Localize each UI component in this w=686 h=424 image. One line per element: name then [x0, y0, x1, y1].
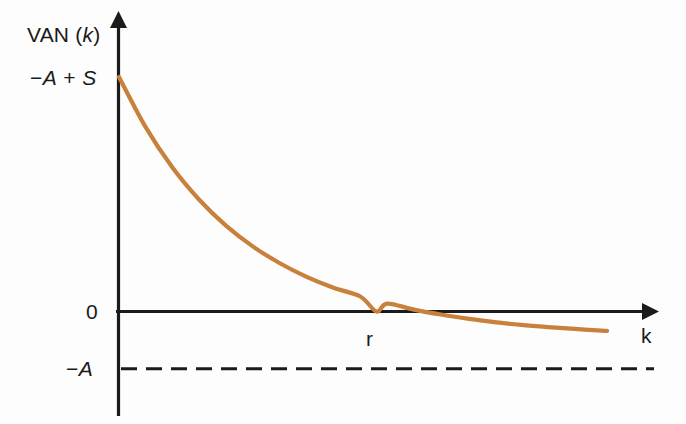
y-axis-title-paren: ) [93, 23, 100, 46]
y-axis-title: VAN (k) [27, 24, 100, 45]
x-axis-title: k [641, 325, 652, 346]
root-label: r [366, 328, 373, 349]
y-axis-title-text: VAN ( [27, 23, 82, 46]
x-axis-arrowhead [642, 303, 659, 320]
y-intercept-label: −A + S [30, 67, 97, 88]
y-intercept-sign: − [30, 66, 43, 89]
asymptote-label: −A [66, 358, 93, 379]
y-intercept-salvage: S [82, 66, 96, 89]
asymptote-amount: A [79, 357, 93, 380]
y-intercept-operator: + [57, 66, 82, 89]
chart-figure: VAN (k) −A + S 0 −A r k [0, 0, 686, 424]
y-axis-title-variable: k [82, 23, 93, 46]
y-axis-arrowhead [110, 11, 127, 28]
y-intercept-amount: A [43, 66, 57, 89]
van-decay-curve [119, 77, 607, 331]
y-axis-zero-label: 0 [86, 301, 98, 322]
asymptote-sign: − [66, 357, 79, 380]
chart-plot-area [0, 0, 686, 424]
